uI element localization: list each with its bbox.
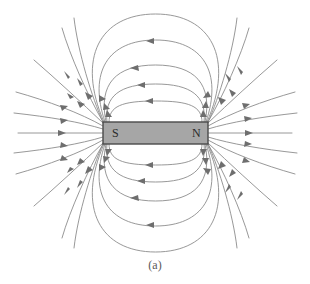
closed-loop-below-3 (104, 144, 207, 201)
open-line-left-lower-3 (34, 143, 103, 206)
arrow-icon (137, 82, 145, 88)
field-line-canvas: .fl{fill:none;stroke:#8c8c8c;stroke-widt… (0, 0, 310, 284)
arrow-icon (60, 155, 68, 161)
north-pole-label: N (192, 126, 201, 140)
arrow-icon (237, 191, 243, 200)
arrow-icon (137, 178, 145, 184)
arrow-icon (203, 168, 211, 175)
arrow-icon (60, 142, 68, 148)
open-line-left-upper-3 (34, 60, 103, 123)
arrow-icon (245, 130, 253, 136)
open-line-left-upper-1 (14, 113, 103, 129)
arrow-icon (67, 167, 74, 173)
open-line-right-lower-5 (208, 144, 237, 248)
open-line-right-upper-5 (208, 18, 237, 122)
arrow-icon (130, 65, 139, 71)
arrow-icon (202, 101, 209, 108)
arrow-icon (64, 187, 70, 195)
open-line-right-lower-3 (208, 143, 277, 206)
closed-loop-above-1 (109, 101, 202, 122)
arrow-icon (203, 91, 211, 98)
arrow-icon (77, 78, 83, 86)
open-line-left-lower-5 (74, 144, 103, 248)
arrow-icon (77, 180, 83, 188)
closed-loop-above-5 (92, 14, 218, 122)
arrow-icon (64, 71, 70, 79)
closed-loop-above-3 (104, 65, 207, 122)
arrow-icon (202, 158, 209, 165)
closed-loop-below-1 (109, 144, 202, 165)
south-pole-label: S (112, 126, 119, 140)
arrow-icon (145, 98, 153, 104)
arrow-icon (237, 66, 243, 75)
open-line-left-upper-5 (74, 18, 103, 122)
closed-loop-above-4 (99, 40, 212, 122)
open-line-right-upper-1 (208, 113, 297, 129)
arrow-icon (60, 118, 68, 124)
arrow-icon (146, 38, 154, 44)
arrow-icon (145, 162, 153, 168)
arrow-icon (60, 105, 68, 111)
bar-magnet: S N (103, 122, 208, 144)
closed-loop-below-2 (107, 144, 205, 182)
open-line-right-upper-3 (208, 60, 277, 123)
open-line-left-lower-1 (14, 137, 103, 153)
arrow-icon (130, 195, 139, 201)
figure-magnetic-field-bar-magnet: .fl{fill:none;stroke:#8c8c8c;stroke-widt… (0, 0, 310, 284)
closed-loop-below-5 (92, 144, 218, 252)
open-line-right-lower-1 (208, 137, 297, 153)
arrow-icon (146, 222, 154, 228)
figure-caption: (a) (0, 258, 310, 273)
closed-loop-above-2 (107, 84, 205, 122)
closed-loop-below-4 (99, 144, 212, 226)
arrow-icon (58, 130, 66, 136)
arrow-icon (229, 169, 236, 177)
arrow-icon (67, 93, 74, 99)
arrow-icon (229, 89, 236, 97)
